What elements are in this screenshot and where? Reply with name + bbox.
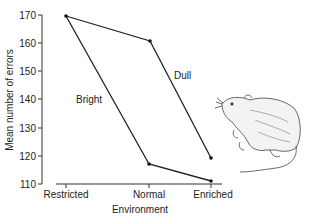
svg-text:120: 120 [19, 151, 36, 162]
rat-illustration-icon [215, 95, 300, 172]
svg-text:Restricted: Restricted [43, 189, 88, 200]
svg-text:160: 160 [19, 38, 36, 49]
svg-text:Enriched: Enriched [193, 189, 232, 200]
svg-text:Normal: Normal [133, 189, 165, 200]
x-ticks [66, 184, 211, 188]
y-tick-labels: 170 160 150 140 130 120 110 [19, 10, 36, 190]
y-ticks [38, 15, 42, 184]
svg-text:170: 170 [19, 10, 36, 21]
series-bright-label: Bright [76, 94, 102, 105]
x-tick-labels: Restricted Normal Enriched [43, 189, 232, 200]
svg-text:110: 110 [20, 179, 36, 190]
chart: 170 160 150 140 130 120 110 Mean number … [0, 0, 310, 224]
x-axis-label: Environment [112, 204, 168, 215]
svg-text:140: 140 [19, 94, 36, 105]
y-axis-label: Mean number of errors [4, 49, 15, 151]
series-dull-line [66, 16, 211, 158]
series-dull-label: Dull [174, 70, 191, 81]
svg-text:150: 150 [19, 66, 36, 77]
svg-text:130: 130 [19, 123, 36, 134]
